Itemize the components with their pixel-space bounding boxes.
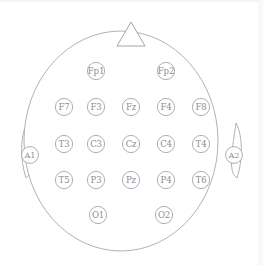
electrode-label: F3 xyxy=(90,102,101,112)
electrode-f7[interactable]: F7 xyxy=(55,98,72,115)
electrode-label: F7 xyxy=(58,102,69,112)
electrode-label: F8 xyxy=(195,102,206,112)
electrode-label: Cz xyxy=(126,139,137,149)
eeg-electrode-diagram-canvas: Fp1Fp2F7F3FzF4F8T3C3CzC4T4T5P3PzP4T6O1O2… xyxy=(0,0,263,265)
electrode-label: P3 xyxy=(91,175,102,185)
electrode-label: T5 xyxy=(59,175,70,185)
electrode-label: O2 xyxy=(158,210,170,220)
electrode-c4[interactable]: C4 xyxy=(157,135,174,152)
electrode-fp2[interactable]: Fp2 xyxy=(157,62,174,79)
eeg-head-map: Fp1Fp2F7F3FzF4F8T3C3CzC4T4T5P3PzP4T6O1O2… xyxy=(0,0,263,265)
electrode-o2[interactable]: O2 xyxy=(155,206,172,223)
electrode-label: Pz xyxy=(126,175,137,185)
electrode-label: P4 xyxy=(161,175,173,185)
electrode-label: Fp2 xyxy=(158,66,174,76)
electrode-label: Fz xyxy=(126,102,137,112)
electrode-label: F4 xyxy=(160,102,172,112)
electrode-fp1[interactable]: Fp1 xyxy=(87,62,104,79)
electrode-fz[interactable]: Fz xyxy=(122,98,139,115)
reference-electrode-label: A2 xyxy=(227,150,239,160)
electrode-label: T3 xyxy=(59,139,70,149)
electrode-f4[interactable]: F4 xyxy=(157,98,174,115)
reference-electrode-label: A1 xyxy=(23,150,35,160)
electrode-label: O1 xyxy=(92,210,104,220)
reference-electrode-a1[interactable]: A1 xyxy=(22,147,39,164)
head-outline xyxy=(24,31,218,251)
electrode-cz[interactable]: Cz xyxy=(122,135,139,152)
electrode-c3[interactable]: C3 xyxy=(87,135,104,152)
electrode-label: C3 xyxy=(90,139,102,149)
electrode-o1[interactable]: O1 xyxy=(89,206,106,223)
electrode-label: Fp1 xyxy=(88,66,104,76)
electrode-pz[interactable]: Pz xyxy=(122,171,139,188)
electrode-t5[interactable]: T5 xyxy=(55,171,72,188)
electrode-f8[interactable]: F8 xyxy=(192,98,209,115)
electrode-t4[interactable]: T4 xyxy=(192,135,209,152)
electrode-p4[interactable]: P4 xyxy=(157,171,174,188)
electrode-t3[interactable]: T3 xyxy=(55,135,72,152)
electrode-t6[interactable]: T6 xyxy=(192,171,209,188)
electrode-label: C4 xyxy=(160,139,172,149)
electrode-p3[interactable]: P3 xyxy=(87,171,104,188)
reference-electrode-a2[interactable]: A2 xyxy=(226,147,243,164)
electrode-label: T4 xyxy=(196,139,208,149)
electrode-f3[interactable]: F3 xyxy=(87,98,104,115)
electrode-label: T6 xyxy=(196,175,207,185)
